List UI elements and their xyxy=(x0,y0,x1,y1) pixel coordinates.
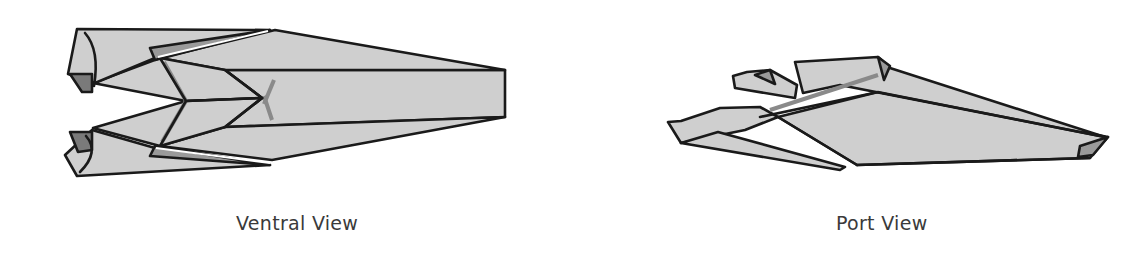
port-ship-drawing xyxy=(0,0,1131,200)
port-view-caption: Port View xyxy=(836,212,928,234)
port-view-illustration xyxy=(0,0,1131,200)
ventral-view-caption: Ventral View xyxy=(236,212,358,234)
